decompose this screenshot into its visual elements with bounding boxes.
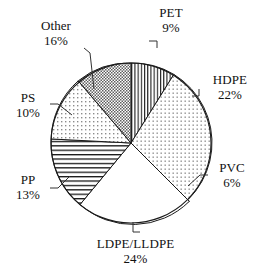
pie-label-ps: PS 10% bbox=[6, 90, 50, 120]
pie-label-pet: PET 9% bbox=[148, 5, 194, 35]
pie-label-pp-name: PP bbox=[6, 172, 50, 187]
pie-label-pvc-name: PVC bbox=[208, 160, 256, 175]
leader-line-pet bbox=[149, 41, 157, 48]
pie-label-ps-percent: 10% bbox=[6, 105, 50, 120]
pie-label-pet-percent: 9% bbox=[148, 20, 194, 35]
pie-label-pet-name: PET bbox=[148, 5, 194, 20]
pie-label-ldpe-lldpe: LDPE/LLDPE 24% bbox=[78, 236, 193, 266]
pie-label-other-percent: 16% bbox=[28, 33, 84, 48]
pie-label-ps-name: PS bbox=[6, 90, 50, 105]
pie-label-pvc-percent: 6% bbox=[208, 175, 256, 190]
pie-chart: PET 9% Other 16% PS 10% PP 13% HDPE 22% … bbox=[0, 0, 262, 277]
pie-label-hdpe-name: HDPE bbox=[203, 72, 257, 87]
pie-label-hdpe: HDPE 22% bbox=[203, 72, 257, 102]
pie-label-pp-percent: 13% bbox=[6, 187, 50, 202]
pie-label-ldpe-lldpe-name: LDPE/LLDPE bbox=[78, 236, 193, 251]
pie-label-other: Other 16% bbox=[28, 18, 84, 48]
pie-label-hdpe-percent: 22% bbox=[203, 87, 257, 102]
pie-label-ldpe-lldpe-percent: 24% bbox=[78, 251, 193, 266]
pie-label-other-name: Other bbox=[28, 18, 84, 33]
pie-label-pvc: PVC 6% bbox=[208, 160, 256, 190]
pie-label-pp: PP 13% bbox=[6, 172, 50, 202]
